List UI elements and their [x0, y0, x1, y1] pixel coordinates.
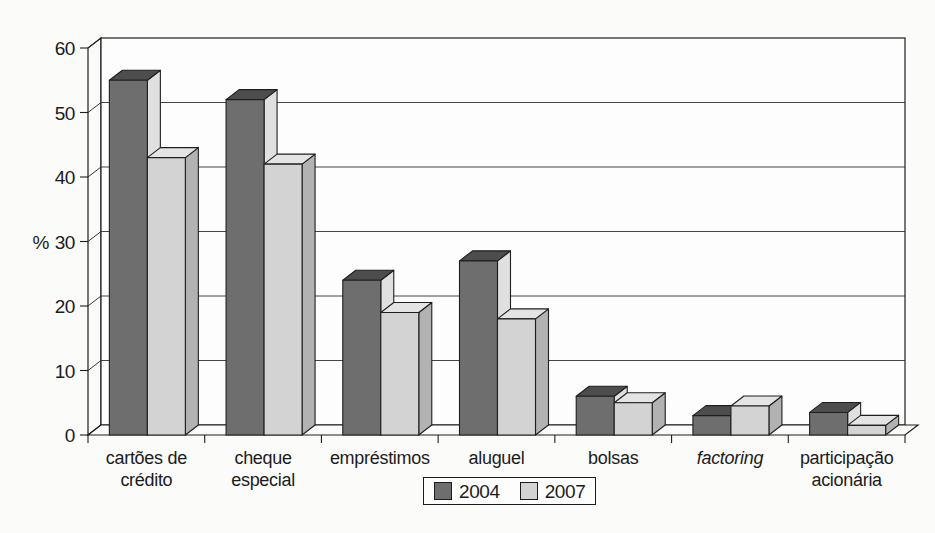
bar-side-face [185, 148, 198, 435]
bar-2007-0 [147, 148, 198, 435]
bar-front-face [848, 425, 886, 435]
category-label-3: aluguel [469, 448, 525, 468]
y-axis-label-60: 60 [55, 38, 75, 59]
y-axis-label-10: 10 [55, 361, 75, 382]
bar-2007-1 [264, 154, 315, 435]
legend-swatch-2004 [434, 482, 452, 500]
bar-front-face [459, 261, 497, 435]
category-label-1: chequeespecial [231, 448, 295, 490]
bar-front-face [343, 280, 381, 435]
category-label-0: cartões decrédito [106, 448, 187, 490]
legend: 2004 2007 [423, 477, 596, 505]
bar-front-face [810, 412, 848, 435]
bar-front-face [381, 312, 419, 435]
y-axis-label-40: 40 [55, 167, 75, 188]
bar-front-face [576, 396, 614, 435]
y-axis-unit-label: % [33, 232, 50, 253]
y-axis-label-30: 30 [55, 232, 75, 253]
bar-front-face [693, 416, 731, 435]
bar-front-face [497, 319, 535, 435]
chart-svg: 0102030405060%cartões decréditochequeesp… [0, 0, 935, 533]
bar-side-face [419, 302, 432, 435]
bar-front-face [147, 158, 185, 435]
bar-side-face [302, 154, 315, 435]
legend-label-2007: 2007 [545, 482, 586, 501]
category-label-2: empréstimos [330, 448, 430, 468]
category-label-4: bolsas [588, 448, 639, 468]
bar-2007-2 [381, 302, 432, 435]
bar-front-face [226, 100, 264, 435]
bar-2007-5 [731, 396, 782, 435]
category-label-6: participaçãoacionária [800, 448, 894, 490]
bar-front-face [614, 403, 652, 435]
y-axis-label-20: 20 [55, 296, 75, 317]
y-axis-label-0: 0 [65, 425, 75, 446]
bar-front-face [264, 164, 302, 435]
legend-label-2004: 2004 [459, 482, 500, 501]
bar-2007-4 [614, 393, 665, 435]
bar-2007-3 [497, 309, 548, 435]
bar-side-face [535, 309, 548, 435]
bar-front-face [731, 406, 769, 435]
legend-swatch-2007 [520, 482, 538, 500]
chart-figure: 0102030405060%cartões decréditochequeesp… [0, 0, 935, 533]
y-axis-label-50: 50 [55, 103, 75, 124]
bar-front-face [109, 80, 147, 435]
category-label-5: factoring [697, 448, 764, 468]
